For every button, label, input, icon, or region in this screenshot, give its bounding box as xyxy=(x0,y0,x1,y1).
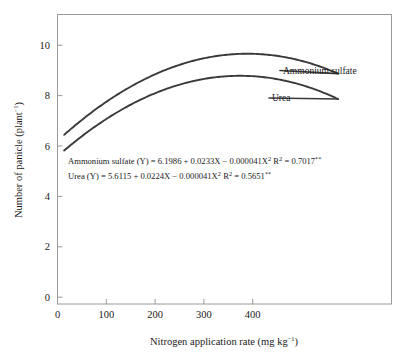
equation-urea: Urea (Y) = 5.6115 + 0.0224X − 0.000041X2… xyxy=(68,170,271,181)
figure-container: 0 2 4 6 8 10 0 100 200 300 400 Ammon xyxy=(0,0,412,354)
y-axis-title: Number of panicle (plant−1) xyxy=(12,101,25,218)
x-tick-label-100: 100 xyxy=(98,309,114,320)
x-tick-label-0: 0 xyxy=(55,309,60,320)
y-axis-title-sup: −1 xyxy=(12,105,19,112)
y-tick-label-6: 6 xyxy=(45,141,50,152)
y-axis-title-main: Number of panicle (plant xyxy=(13,112,25,218)
y-tick-label-2: 2 xyxy=(45,241,50,252)
x-tick-label-300: 300 xyxy=(196,309,212,320)
y-axis-title-tail: ) xyxy=(13,101,25,105)
panicle-vs-nitrogen-chart: 0 2 4 6 8 10 0 100 200 300 400 Ammon xyxy=(0,0,412,354)
equation-as-stars: ** xyxy=(315,155,321,162)
equation-urea-prefix: Urea (Y) = 5.6115 + 0.0224X − 0.000041X xyxy=(68,171,219,181)
equation-urea-suffix: = 0.5651 xyxy=(232,171,265,181)
x-axis-title-tail: ) xyxy=(294,336,298,348)
x-axis-title: Nitrogen application rate (mg kg−1) xyxy=(150,335,298,348)
x-axis-title-main: Nitrogen application rate (mg kg xyxy=(150,336,288,348)
x-tick-label-200: 200 xyxy=(147,309,163,320)
equation-ammonium-sulfate: Ammonium sulfate (Y) = 6.1986 + 0.0233X … xyxy=(68,155,321,166)
x-axis-title-sup: −1 xyxy=(288,335,295,342)
x-tick-label-400: 400 xyxy=(245,309,261,320)
y-tick-label-0: 0 xyxy=(45,292,50,303)
equation-urea-stars: ** xyxy=(265,170,271,177)
y-tick-label-4: 4 xyxy=(45,191,51,202)
series-label-urea: Urea xyxy=(272,93,291,103)
y-tick-label-10: 10 xyxy=(40,40,51,51)
equation-as-prefix: Ammonium sulfate (Y) = 6.1986 + 0.0233X … xyxy=(68,156,269,166)
y-tick-label-8: 8 xyxy=(45,90,50,101)
equation-as-suffix: = 0.7017 xyxy=(282,156,315,166)
series-label-ammonium-sulfate: Ammonium sulfate xyxy=(283,66,357,76)
